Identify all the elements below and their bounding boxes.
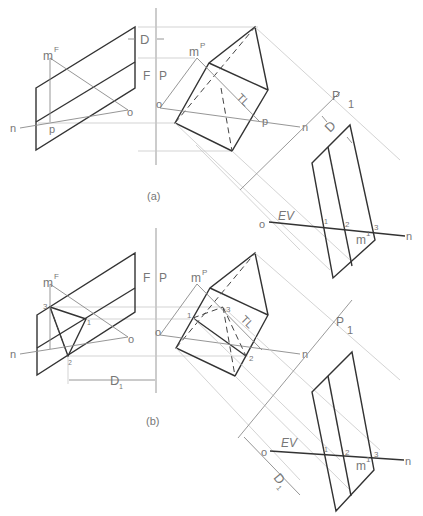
label-aux-m-b: m [356,459,366,473]
profile-prism-a-hidden2 [221,88,232,151]
label-m-front-b: m [43,276,53,290]
label-front-pt3-b: 3 [43,302,48,311]
label-pt3-b: 3 [374,450,379,459]
label-pt2-a: 2 [345,220,350,229]
front-plane-a-midline [36,62,135,122]
aux-projector-b-1 [255,253,400,380]
label-aux-1-a: 1 [348,98,354,110]
line-o-n-profile-b [160,335,300,354]
label-aux-P-b: P [336,315,344,329]
label-o-profile-b: o [155,326,161,338]
label-D1-sub-b: 1 [119,383,123,390]
label-D1-b: D [110,373,119,388]
label-aux-P-a: P [332,89,340,103]
label-pt2-b: 2 [345,448,350,457]
label-m-profile-sup-b: P [202,268,207,277]
line-m-o-front-a [50,58,128,110]
label-pt3-a: 3 [374,223,379,232]
dim-aux-D-arrow2-a [347,137,352,143]
aux-projector-a-1 [255,27,400,160]
profile-prism-b-edge2 [193,318,246,356]
label-m-profile-sup-a: P [200,41,205,50]
label-TL-b: TL [239,313,257,331]
front-plane-b-midline [37,288,135,348]
label-fold-F-b: F [143,271,150,285]
label-aux-n-a: n [406,230,412,242]
profile-prism-b-edge1 [210,288,268,315]
aux-projector-b-3 [235,376,350,490]
label-fold-P-a: P [159,69,167,83]
label-m-profile-a: m [189,45,199,59]
caption-b: (b) [146,415,159,427]
label-n-front-a: n [10,122,16,134]
aux-plane-a [312,125,375,278]
profile-prism-a-hidden1 [175,27,255,123]
label-D-a: D [140,32,149,47]
aux-projector-a-4 [196,145,300,250]
label-profile-pt1-b: 1 [187,311,192,320]
label-profile-pt3-b: 3 [226,305,231,314]
label-aux-m-sup-b: 1 [366,455,371,464]
aux-projector-a-2 [175,123,330,270]
label-front-pt2-b: 2 [68,359,72,366]
label-o-front-a: o [127,106,133,118]
panel-b: m F o n 3 1 2 F P D 1 m P o n 1 3 2 TL [10,228,411,511]
label-aux-o-b: o [261,446,267,458]
label-EV-a: EV [278,209,295,223]
front-plane-b [37,253,135,375]
label-pt1-b: 1 [324,446,328,453]
label-m-front-sup-a: F [54,45,59,54]
label-n-profile-a: n [302,121,308,133]
label-o-front-b: o [128,333,134,345]
line-m-p-profile-a [197,58,260,122]
label-profile-pt2-b: 2 [249,354,254,363]
aux-plane-b-midline [328,376,351,496]
label-p-profile-a: p [262,115,268,127]
label-aux-o-a: o [259,218,265,230]
line-o-n-profile-a [160,108,300,127]
label-o-profile-a: o [156,98,162,110]
label-fold-P-b: P [159,271,167,285]
label-m-front-sup-b: F [54,272,59,281]
line-EV-b [270,451,404,460]
label-fold-F-a: F [143,69,150,83]
label-pt1-a: 1 [324,218,328,225]
aux-plane-a-midline [328,147,352,266]
panel-a: m F o n p F P D m P o p n TL P 1 [10,8,412,278]
label-aux-m-a: m [356,233,366,247]
line-m-o-profile-b [160,284,197,335]
label-TL-a: TL [235,91,253,109]
line-EV-a [269,222,405,236]
label-aux-1-b: 1 [347,324,353,336]
label-aux-D-a: D [322,118,339,135]
label-n-front-b: n [10,348,16,360]
fold-line-p1-a [240,92,340,190]
aux-projector-b-2 [176,348,300,480]
label-front-pt1-b: 1 [87,319,91,326]
label-p-front-a: p [49,123,55,135]
label-aux-n-b: n [405,455,411,467]
label-aux-m-sup-a: 1 [366,229,371,238]
line-m-o-profile-a [160,58,197,108]
caption-a: (a) [147,190,160,202]
aux-plane-b [312,352,374,511]
label-m-front-a: m [43,49,53,63]
label-EV-b: EV [281,436,298,450]
label-m-profile-b: m [191,271,201,285]
profile-prism-a-edge1 [209,63,268,90]
descriptive-geometry-figure: m F o n p F P D m P o p n TL P 1 [0,0,423,516]
